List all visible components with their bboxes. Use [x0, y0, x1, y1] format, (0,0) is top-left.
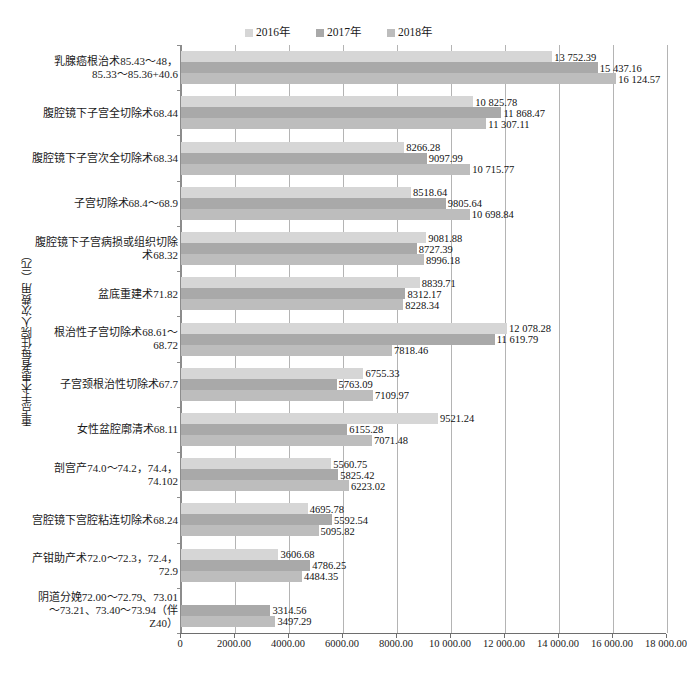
bar-2017年-1[interactable]: 15 437.16 [181, 62, 598, 73]
bar-value-label: 4695.78 [310, 503, 344, 514]
y-category-label: 子宫颈根治性切除术67.7 [30, 378, 178, 391]
bar-group: 9081.888727.398996.18 [181, 232, 666, 265]
legend-label: 2016年 [256, 27, 290, 39]
bar-2018年-10[interactable]: 6223.02 [181, 480, 349, 491]
bar-2016年-4[interactable]: 8518.64 [181, 187, 411, 198]
x-tick-label: 14 000.00 [537, 638, 579, 649]
bar-2016年-6[interactable]: 8839.71 [181, 277, 420, 288]
bar-value-label: 4484.35 [304, 571, 338, 582]
legend-item-2018年[interactable]: 2018年 [387, 27, 432, 39]
y-tick-mark [177, 45, 181, 46]
bar-2017年-9[interactable]: 6155.28 [181, 424, 347, 435]
bar-2016年-8[interactable]: 6755.33 [181, 368, 363, 379]
y-tick-mark [177, 271, 181, 272]
bar-2017年-11[interactable]: 5592.54 [181, 514, 332, 525]
bar-value-label: 15 437.16 [600, 62, 642, 73]
bar-2016年-7[interactable]: 12 078.28 [181, 323, 507, 334]
bar-2017年-3[interactable]: 9097.99 [181, 153, 427, 164]
bar-group: 12 078.2811 619.797818.46 [181, 323, 666, 356]
bar-2016年-1[interactable]: 13 752.39 [181, 51, 552, 62]
bar-value-label: 8839.71 [422, 277, 456, 288]
y-category-label: 剖宫产74.0～74.2，74.4，74.102 [30, 462, 178, 488]
bar-2016年-3[interactable]: 8266.28 [181, 142, 404, 153]
y-axis-category-labels: 乳腺癌根治术85.43～48，85.33～85.36+40.6腹腔镜下子宫全切除… [30, 45, 178, 633]
bar-2018年-8[interactable]: 7109.97 [181, 390, 373, 401]
bar-value-label: 8266.28 [406, 142, 440, 153]
bar-2017年-6[interactable]: 8312.17 [181, 288, 405, 299]
legend-swatch-icon [245, 29, 253, 37]
bar-group: 8518.649805.6410 698.84 [181, 187, 666, 220]
y-category-label: 盆底重建术71.82 [30, 287, 178, 300]
y-tick-mark [177, 226, 181, 227]
y-tick-mark [177, 407, 181, 408]
bar-2018年-1[interactable]: 16 124.57 [181, 73, 616, 84]
bar-2018年-7[interactable]: 7818.46 [181, 345, 392, 356]
bar-2016年-11[interactable]: 4695.78 [181, 503, 308, 514]
bar-value-label: 5592.54 [334, 514, 368, 525]
bar-value-label: 10 698.84 [472, 209, 514, 220]
y-tick-mark [177, 135, 181, 136]
bar-2018年-2[interactable]: 11 307.11 [181, 118, 486, 129]
bar-group: 4695.785592.545095.82 [181, 503, 666, 536]
legend-label: 2017年 [327, 27, 361, 39]
y-tick-mark [177, 497, 181, 498]
y-category-label: 宫腔镜下宫腔粘连切除术68.24 [30, 513, 178, 526]
y-tick-mark [177, 362, 181, 363]
bar-value-label: 11 868.47 [503, 107, 545, 118]
bar-2018年-9[interactable]: 7071.48 [181, 435, 372, 446]
x-tick-label: 2000.00 [217, 638, 251, 649]
y-category-label: 腹腔镜下子宫病损或组织切除术68.32 [30, 236, 178, 262]
bar-value-label: 8727.39 [419, 243, 453, 254]
bar-value-label: 9081.88 [428, 232, 462, 243]
bar-value-label: 13 752.39 [554, 51, 596, 62]
bar-2018年-3[interactable]: 10 715.77 [181, 164, 470, 175]
bar-2017年-13[interactable]: 3314.56 [181, 605, 270, 616]
y-tick-mark [177, 452, 181, 453]
bar-2016年-2[interactable]: 10 825.78 [181, 96, 473, 107]
y-category-label: 乳腺癌根治术85.43～48，85.33～85.36+40.6 [30, 55, 178, 81]
bar-2016年-5[interactable]: 9081.88 [181, 232, 426, 243]
bar-2018年-11[interactable]: 5095.82 [181, 525, 319, 536]
bar-2017年-8[interactable]: 5763.09 [181, 379, 337, 390]
bar-2016年-10[interactable]: 5560.75 [181, 458, 331, 469]
bar-group: 9521.246155.287071.48 [181, 413, 666, 446]
y-category-label: 腹腔镜下子宫次全切除术68.34 [30, 152, 178, 165]
bar-2017年-5[interactable]: 8727.39 [181, 243, 417, 254]
bar-2017年-10[interactable]: 5825.42 [181, 469, 338, 480]
legend-item-2017年[interactable]: 2017年 [316, 27, 361, 39]
gridline [667, 45, 668, 633]
bar-2018年-4[interactable]: 10 698.84 [181, 209, 470, 220]
bar-2017年-2[interactable]: 11 868.47 [181, 107, 501, 118]
bar-value-label: 5825.42 [340, 469, 374, 480]
bar-value-label: 3606.68 [280, 549, 314, 560]
bar-group: 13 752.3915 437.1616 124.57 [181, 51, 666, 84]
bar-value-label: 16 124.57 [618, 73, 660, 84]
x-tick-label: 18 000.00 [645, 638, 687, 649]
bar-2017年-7[interactable]: 11 619.79 [181, 334, 495, 345]
bar-2017年-4[interactable]: 9805.64 [181, 198, 446, 209]
bar-value-label: 6755.33 [365, 368, 399, 379]
legend-item-2016年[interactable]: 2016年 [245, 27, 290, 39]
bar-value-label: 8996.18 [426, 254, 460, 265]
legend-swatch-icon [316, 29, 324, 37]
bar-2018年-13[interactable]: 3497.29 [181, 616, 275, 627]
bar-2016年-9[interactable]: 9521.24 [181, 413, 438, 424]
bar-value-label: 5560.75 [333, 458, 367, 469]
y-tick-mark [177, 588, 181, 589]
bar-2018年-6[interactable]: 8228.34 [181, 299, 403, 310]
x-tick-label: 8000.00 [379, 638, 413, 649]
bar-value-label: 6155.28 [349, 424, 383, 435]
bar-value-label: 7109.97 [375, 390, 409, 401]
bar-2018年-5[interactable]: 8996.18 [181, 254, 424, 265]
legend-label: 2018年 [398, 27, 432, 39]
bar-value-label: 10 715.77 [472, 164, 514, 175]
bar-2018年-12[interactable]: 4484.35 [181, 571, 302, 582]
bar-value-label: 9805.64 [448, 198, 482, 209]
bar-value-label: 11 307.11 [488, 118, 529, 129]
bar-value-label: 9097.99 [429, 153, 463, 164]
bar-2017年-12[interactable]: 4786.25 [181, 560, 310, 571]
bar-value-label: 6223.02 [351, 480, 385, 491]
x-axis-tick-labels: 02000.004000.006000.008000.0010 000.0012… [180, 638, 666, 654]
bar-2016年-12[interactable]: 3606.68 [181, 549, 278, 560]
